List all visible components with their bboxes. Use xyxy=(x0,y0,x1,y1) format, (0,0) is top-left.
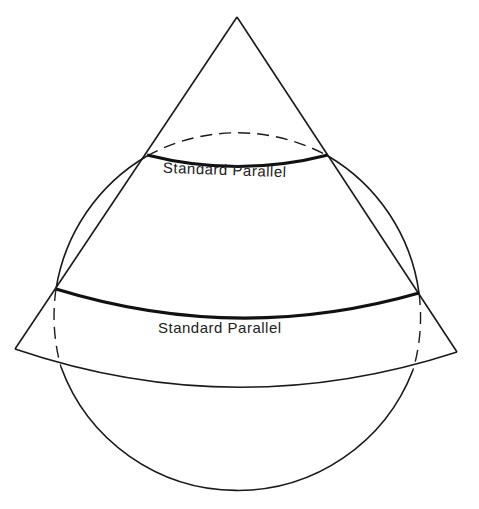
secant-conic-diagram: Standard Parallel Standard Parallel xyxy=(0,0,479,509)
lower-parallel-label: Standard Parallel xyxy=(158,319,282,336)
lower-standard-parallel xyxy=(56,289,419,318)
diagram-drawing xyxy=(0,0,479,509)
